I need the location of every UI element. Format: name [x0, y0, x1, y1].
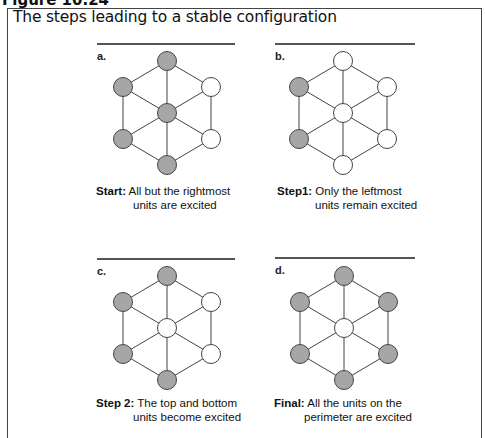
caption-line1: All the units on the: [307, 397, 402, 409]
caption-lead: Final:: [274, 397, 305, 409]
unit-node-bottom: [335, 371, 354, 390]
unit-node-center: [335, 319, 354, 338]
unit-node-lower-left: [291, 345, 310, 364]
unit-node-top: [335, 267, 354, 286]
unit-node-upper-right: [379, 293, 398, 312]
unit-node-lower-right: [379, 345, 398, 364]
panel-d-caption: Final: All the units on the perimeter ar…: [274, 396, 412, 424]
unit-node-upper-left: [291, 293, 310, 312]
caption-line2: perimeter are excited: [274, 410, 412, 424]
